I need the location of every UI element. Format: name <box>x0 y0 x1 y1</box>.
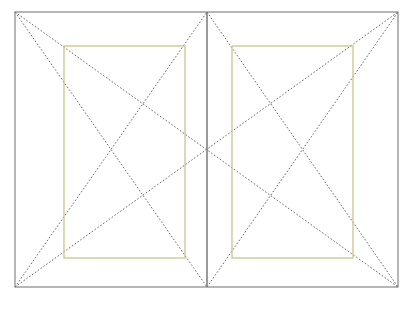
canon-svg-canvas <box>0 0 416 310</box>
page-layout-diagram <box>0 0 416 310</box>
